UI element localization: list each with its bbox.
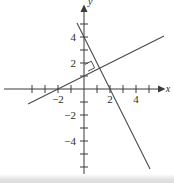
y-tick-label-neg4: −4 — [64, 135, 76, 147]
y-axis-arrowhead — [81, 5, 88, 13]
graph-figure: −2 2 4 4 2 −2 −4 x y — [0, 0, 174, 183]
y-tick-label-neg2: −2 — [64, 109, 76, 121]
coordinate-plane-plot: −2 2 4 4 2 −2 −4 x y — [0, 0, 174, 183]
y-tick-label-4: 4 — [71, 31, 77, 43]
y-axis-label: y — [87, 0, 93, 7]
x-tick-label-2: 2 — [107, 93, 113, 105]
x-axis-arrowhead — [158, 86, 166, 93]
x-axis — [4, 86, 166, 93]
ascending-line-series — [28, 36, 164, 104]
x-axis-label: x — [165, 83, 171, 94]
x-tick-label-neg2: −2 — [52, 93, 64, 105]
descending-line-series — [77, 23, 150, 169]
y-axis — [81, 5, 88, 179]
y-tick-label-2: 2 — [71, 57, 77, 69]
bottom-gray-band — [0, 174, 174, 183]
x-tick-label-4: 4 — [133, 93, 139, 105]
